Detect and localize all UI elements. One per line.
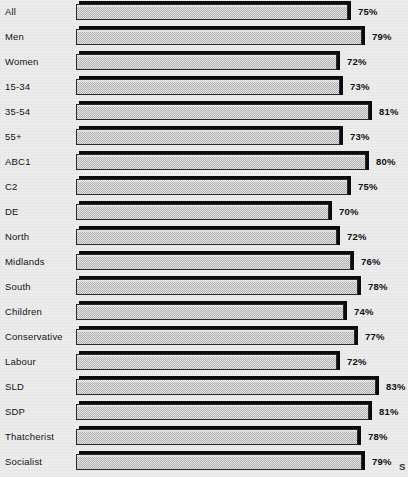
bar-face (76, 379, 376, 395)
bar-face (76, 229, 337, 245)
bar-row: ABC180% (0, 150, 408, 175)
bar-value-label: 75% (358, 181, 378, 192)
bar-row: Thatcherist78% (0, 425, 408, 450)
bar (76, 226, 341, 248)
bar-value-label: 78% (368, 431, 388, 442)
bar-face (76, 304, 344, 320)
bar-row: Children74% (0, 300, 408, 325)
bar-value-label: 80% (376, 156, 396, 167)
bar (76, 426, 362, 448)
category-label: 35-54 (5, 106, 30, 117)
category-label: 55+ (5, 131, 22, 142)
bar-row: DE70% (0, 200, 408, 225)
bar-value-label: 70% (339, 206, 359, 217)
category-label: South (5, 281, 31, 292)
cropped-text-fragment: S (399, 461, 408, 472)
bar-face (76, 404, 369, 420)
bar-value-label: 74% (354, 306, 374, 317)
bar (76, 326, 359, 348)
bar (76, 26, 366, 48)
bar (76, 176, 352, 198)
bar-value-label: 75% (358, 6, 378, 17)
bar-value-label: 78% (368, 281, 388, 292)
bar-value-label: 76% (361, 256, 381, 267)
bar-value-label: 79% (372, 456, 392, 467)
bar-face (76, 4, 348, 20)
category-label: DE (5, 206, 19, 217)
bar (76, 201, 333, 223)
bar-value-label: 72% (347, 231, 367, 242)
bar-row: SLD83% (0, 375, 408, 400)
bar-row: North72% (0, 225, 408, 250)
bar-row: Men79% (0, 25, 408, 50)
bar (76, 51, 341, 73)
bar-row: 35-5481% (0, 100, 408, 125)
bar-value-label: 72% (347, 56, 367, 67)
category-label: 15-34 (5, 81, 30, 92)
category-label: C2 (5, 181, 18, 192)
bar-row: Conservative77% (0, 325, 408, 350)
bar-value-label: 72% (347, 356, 367, 367)
bar (76, 276, 362, 298)
category-label: All (5, 6, 16, 17)
bar-row: 55+73% (0, 125, 408, 150)
bar-value-label: 77% (365, 331, 385, 342)
bar-face (76, 429, 358, 445)
bar (76, 251, 355, 273)
bar-row: All75% (0, 0, 408, 25)
bar-face (76, 279, 358, 295)
category-label: Labour (5, 356, 36, 367)
bar-face (76, 104, 369, 120)
horizontal-bar-chart: All75%Men79%Women72%15-3473%35-5481%55+7… (0, 0, 408, 477)
bar-row: Socialist79% (0, 450, 408, 475)
bar-face (76, 454, 362, 470)
category-label: Thatcherist (5, 431, 54, 442)
bar (76, 401, 373, 423)
bar (76, 76, 344, 98)
category-label: Conservative (5, 331, 63, 342)
bar-row: South78% (0, 275, 408, 300)
bar-face (76, 79, 340, 95)
category-label: SLD (5, 381, 24, 392)
bar (76, 301, 348, 323)
bar-row: SDP81% (0, 400, 408, 425)
bar (76, 101, 373, 123)
bar (76, 351, 341, 373)
bar (76, 451, 366, 473)
bar-face (76, 329, 355, 345)
category-label: Men (5, 31, 24, 42)
bar-face (76, 354, 337, 370)
bar-face (76, 204, 329, 220)
bar-value-label: 83% (386, 381, 406, 392)
bar-value-label: 79% (372, 31, 392, 42)
category-label: SDP (5, 406, 25, 417)
bar-face (76, 129, 340, 145)
bar (76, 151, 370, 173)
bar-value-label: 81% (379, 106, 399, 117)
bar-face (76, 54, 337, 70)
bar-value-label: 73% (350, 131, 370, 142)
category-label: North (5, 231, 29, 242)
category-label: Midlands (5, 256, 45, 267)
category-label: Socialist (5, 456, 42, 467)
bar (76, 1, 352, 23)
bar-row: Labour72% (0, 350, 408, 375)
category-label: Women (5, 56, 39, 67)
bar (76, 126, 344, 148)
bar-face (76, 29, 362, 45)
bar-row: 15-3473% (0, 75, 408, 100)
bar-row: C275% (0, 175, 408, 200)
category-label: ABC1 (5, 156, 31, 167)
category-label: Children (5, 306, 42, 317)
bar-face (76, 154, 366, 170)
bar-value-label: 73% (350, 81, 370, 92)
bar-face (76, 254, 351, 270)
bar-row: Women72% (0, 50, 408, 75)
bar (76, 376, 380, 398)
bar-value-label: 81% (379, 406, 399, 417)
bar-row: Midlands76% (0, 250, 408, 275)
bar-face (76, 179, 348, 195)
